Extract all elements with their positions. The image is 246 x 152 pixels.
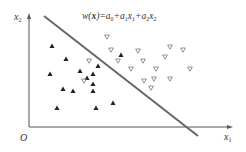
filled-triangle-point (110, 100, 115, 105)
open-triangle-point (149, 86, 154, 90)
open-triangle-point (168, 77, 173, 81)
open-triangle-point (116, 59, 121, 63)
origin-label: O (20, 132, 27, 143)
decision-boundary-line (44, 16, 198, 136)
open-triangle-point (129, 67, 134, 71)
filled-triangle-point (49, 43, 54, 48)
class-1-filled-triangles (47, 43, 123, 110)
filled-triangle-point (47, 71, 52, 76)
open-triangle-point (141, 59, 146, 63)
filled-triangle-point (54, 105, 59, 110)
filled-triangle-point (63, 56, 68, 61)
open-triangle-point (109, 48, 114, 52)
open-triangle-point (163, 55, 168, 59)
open-triangle-point (142, 79, 147, 83)
filled-triangle-point (70, 88, 75, 93)
class-2-open-triangles (82, 35, 193, 90)
open-triangle-point (152, 77, 157, 81)
x2-axis-label: x2 (13, 11, 21, 23)
filled-triangle-point (95, 63, 100, 68)
filled-triangle-point (60, 86, 65, 91)
filled-triangle-point (90, 81, 95, 86)
discriminant-formula: w(x)=a0+a1x1+a2x2 (82, 11, 156, 22)
x1-axis-label: x1 (223, 131, 231, 143)
open-triangle-point (188, 67, 193, 71)
open-triangle-point (168, 45, 173, 49)
x-axis-arrow-icon (227, 125, 233, 129)
filled-triangle-point (90, 88, 95, 93)
open-triangle-point (87, 59, 92, 63)
open-triangle-point (105, 35, 110, 39)
open-triangle-point (82, 79, 87, 83)
filled-triangle-point (90, 71, 95, 76)
filled-triangle-point (93, 105, 98, 110)
open-triangle-point (181, 48, 186, 52)
linear-classifier-diagram: O x1 x2 w(x)=a0+a1x1+a2x2 (0, 0, 246, 152)
open-triangle-point (136, 49, 141, 53)
y-axis-arrow-icon (27, 13, 31, 19)
open-triangle-point (154, 67, 159, 71)
filled-triangle-point (77, 68, 82, 73)
filled-triangle-point (118, 52, 123, 57)
